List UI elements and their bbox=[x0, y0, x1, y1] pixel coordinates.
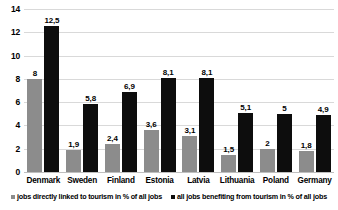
bar-value-label: 3,1 bbox=[185, 127, 196, 135]
bar-group: 1,84,9 bbox=[295, 9, 334, 172]
x-tick-label: Denmark bbox=[24, 174, 63, 188]
bar[interactable]: 5 bbox=[277, 114, 292, 172]
bar-value-label: 8,1 bbox=[163, 69, 174, 77]
bar[interactable]: 5,1 bbox=[238, 113, 253, 172]
bar-value-label: 8,1 bbox=[202, 69, 213, 77]
y-tick-label: 0 bbox=[15, 168, 20, 177]
x-axis: DenmarkSwedenFinlandEstoniaLatviaLithuan… bbox=[24, 174, 334, 188]
bar-group: 2,46,9 bbox=[102, 9, 141, 172]
bar[interactable]: 12,5 bbox=[44, 26, 59, 172]
gridline bbox=[24, 172, 334, 173]
bar[interactable]: 1,8 bbox=[299, 151, 314, 172]
x-tick-label: Poland bbox=[257, 174, 296, 188]
bar[interactable]: 8,1 bbox=[161, 78, 176, 172]
bar-value-label: 8 bbox=[33, 70, 37, 78]
legend-label: all jobs benefiting from tourism in % of… bbox=[177, 193, 327, 200]
bar-value-label: 6,9 bbox=[124, 83, 135, 91]
bar-value-label: 3,6 bbox=[146, 121, 157, 129]
y-tick-label: 14 bbox=[11, 5, 20, 14]
bar-value-label: 2 bbox=[265, 140, 269, 148]
x-tick-label: Lithuania bbox=[218, 174, 257, 188]
legend-swatch-icon bbox=[171, 195, 175, 199]
bar-value-label: 12,5 bbox=[44, 17, 59, 25]
legend-swatch-icon bbox=[11, 195, 15, 199]
y-tick-label: 2 bbox=[15, 145, 20, 154]
bar-group: 3,18,1 bbox=[179, 9, 218, 172]
bar-value-label: 4,9 bbox=[318, 106, 329, 114]
x-tick-label: Latvia bbox=[179, 174, 218, 188]
bar[interactable]: 6,9 bbox=[122, 92, 137, 172]
bar[interactable]: 4,9 bbox=[316, 115, 331, 172]
bar[interactable]: 8,1 bbox=[199, 78, 214, 172]
legend-label: jobs directly linked to tourism in % of … bbox=[17, 193, 162, 200]
bar[interactable]: 3,1 bbox=[182, 136, 197, 172]
bar[interactable]: 1,5 bbox=[221, 155, 236, 172]
y-tick-label: 10 bbox=[11, 52, 20, 61]
bar-group: 25 bbox=[257, 9, 296, 172]
y-tick-label: 12 bbox=[11, 28, 20, 37]
y-tick-label: 8 bbox=[15, 75, 20, 84]
bar-value-label: 5,1 bbox=[240, 104, 251, 112]
bar[interactable]: 1,9 bbox=[66, 150, 81, 172]
bar-value-label: 1,9 bbox=[68, 141, 79, 149]
bar[interactable]: 2,4 bbox=[105, 144, 120, 172]
x-tick-label: Estonia bbox=[140, 174, 179, 188]
bar-groups: 812,51,95,82,46,93,68,13,18,11,55,1251,8… bbox=[24, 9, 334, 172]
legend-item[interactable]: all jobs benefiting from tourism in % of… bbox=[171, 193, 327, 200]
bar[interactable]: 5,8 bbox=[83, 104, 98, 172]
bar-group: 1,95,8 bbox=[63, 9, 102, 172]
bar-group: 812,5 bbox=[24, 9, 63, 172]
y-tick-label: 4 bbox=[15, 121, 20, 130]
y-tick-label: 6 bbox=[15, 98, 20, 107]
chart-legend: jobs directly linked to tourism in % of … bbox=[0, 193, 338, 200]
bar[interactable]: 2 bbox=[260, 149, 275, 172]
bar-group: 1,55,1 bbox=[218, 9, 257, 172]
bar[interactable]: 8 bbox=[27, 79, 42, 172]
bar-value-label: 1,5 bbox=[223, 146, 234, 154]
x-tick-label: Germany bbox=[295, 174, 334, 188]
bar[interactable]: 3,6 bbox=[144, 130, 159, 172]
y-axis: 02468101214 bbox=[0, 0, 24, 172]
bar-group: 3,68,1 bbox=[140, 9, 179, 172]
bar-value-label: 1,8 bbox=[301, 142, 312, 150]
bar-value-label: 5 bbox=[282, 105, 286, 113]
x-tick-label: Finland bbox=[102, 174, 141, 188]
bar-value-label: 5,8 bbox=[85, 95, 96, 103]
bar-chart: 02468101214 812,51,95,82,46,93,68,13,18,… bbox=[0, 0, 338, 210]
legend-item[interactable]: jobs directly linked to tourism in % of … bbox=[11, 193, 162, 200]
bar-value-label: 2,4 bbox=[107, 135, 118, 143]
x-tick-label: Sweden bbox=[63, 174, 102, 188]
